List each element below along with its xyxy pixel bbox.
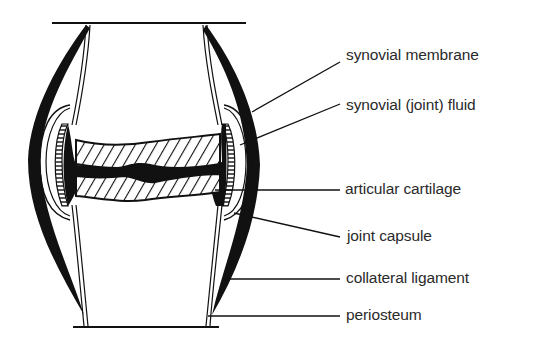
upper-articular-cartilage	[76, 134, 220, 168]
label-periosteum: periosteum	[346, 307, 422, 323]
label-synovial-membrane: synovial membrane	[346, 47, 479, 63]
label-joint-capsule: joint capsule	[347, 228, 432, 244]
leader-synovial-membrane	[252, 62, 340, 112]
label-articular-cartilage: articular cartilage	[345, 181, 461, 197]
label-collateral-ligament: collateral ligament	[346, 270, 469, 286]
label-synovial-fluid: synovial (joint) fluid	[346, 97, 476, 113]
